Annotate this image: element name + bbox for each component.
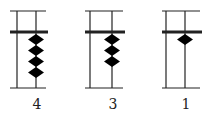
- rod-label-1: 4: [27, 96, 47, 112]
- beads-rod-1: [177, 34, 193, 45]
- rod-3: [85, 11, 125, 88]
- beads-rod-3: [104, 34, 120, 67]
- beads-rod-4: [28, 34, 44, 78]
- rod-label-2: 3: [103, 96, 123, 112]
- rod-label-3: 1: [176, 96, 196, 112]
- rod-1: [162, 11, 202, 88]
